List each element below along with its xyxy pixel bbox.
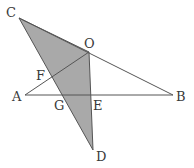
label-d: D (96, 149, 106, 164)
label-a: A (11, 89, 22, 104)
label-e: E (93, 98, 103, 113)
label-g: G (54, 98, 64, 113)
geometry-diagram: C O A B F G E D (0, 0, 194, 168)
label-c: C (6, 5, 16, 20)
label-b: B (176, 89, 186, 104)
shaded-triangle-cod (19, 18, 93, 150)
label-f: F (36, 68, 45, 83)
label-o: O (84, 36, 95, 51)
